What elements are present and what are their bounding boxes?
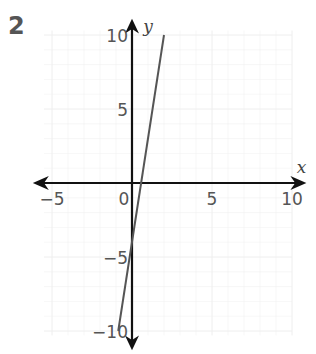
x-axis-label: x [297, 157, 307, 177]
line-chart: −50510−10−5510xy [0, 0, 316, 354]
x-tick-label: 0 [119, 189, 130, 209]
y-axis-label: y [142, 16, 153, 36]
x-tick-label: 10 [281, 189, 303, 209]
y-tick-label: −5 [103, 248, 128, 268]
y-tick-label: 10 [106, 26, 128, 46]
axes [33, 19, 307, 351]
y-tick-label: 5 [117, 100, 128, 120]
x-tick-label: −5 [39, 189, 64, 209]
y-tick-label: −10 [92, 322, 128, 342]
x-tick-label: 5 [207, 189, 218, 209]
